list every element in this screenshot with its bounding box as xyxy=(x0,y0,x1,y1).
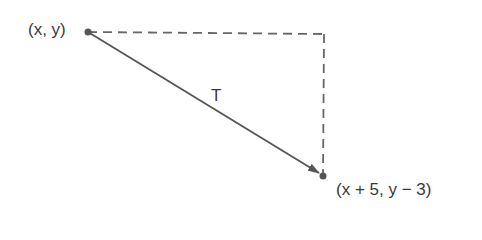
start-point xyxy=(85,29,92,36)
end-point-label: (x + 5, y − 3) xyxy=(336,180,431,200)
horizontal-dashed-line xyxy=(88,32,324,34)
vector-label: T xyxy=(211,86,221,106)
start-point-label: (x, y) xyxy=(28,20,66,40)
end-point xyxy=(320,173,327,180)
vertical-dashed-line xyxy=(323,34,324,176)
translation-vector-arrow xyxy=(88,32,319,173)
